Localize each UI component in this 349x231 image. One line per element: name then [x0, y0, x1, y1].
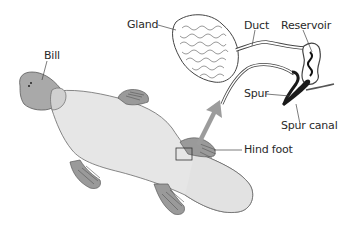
leader-spur: [266, 94, 290, 96]
nostril-2: [28, 85, 30, 87]
platypus-tail: [185, 152, 253, 213]
label-reservoir: Reservoir: [281, 20, 331, 31]
label-spur-canal: Spur canal: [281, 120, 338, 131]
diagram-illustration: [0, 0, 349, 231]
zoom-arrow: [196, 100, 222, 146]
label-spur: Spur: [244, 88, 269, 99]
label-bill: Bill: [44, 50, 60, 61]
label-duct: Duct: [244, 20, 269, 31]
label-hind-foot: Hind foot: [244, 144, 293, 155]
nostril-1: [30, 82, 32, 84]
venom-gland: [173, 15, 239, 83]
label-gland: Gland: [127, 19, 158, 30]
platypus-venom-diagram: Bill Gland Duct Reservoir Spur Spur cana…: [0, 0, 349, 231]
